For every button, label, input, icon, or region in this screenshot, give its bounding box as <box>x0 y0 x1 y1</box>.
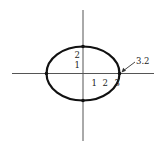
x-tick-label-3: 3 <box>115 78 120 88</box>
intercept-dot-right <box>118 72 122 76</box>
callout-arrow-head-icon <box>122 68 127 73</box>
x-tick-label-1: 1 <box>92 78 97 88</box>
intercept-dot-left <box>45 72 49 76</box>
intercept-value-label: 3.2 <box>136 56 150 66</box>
y-tick-label-2: 2 <box>75 50 80 60</box>
intercept-dot-bottom <box>81 99 85 103</box>
intercept-dot-top <box>81 45 85 49</box>
x-tick-label-2: 2 <box>103 78 108 88</box>
y-tick-label-1: 1 <box>75 60 80 70</box>
ellipse-diagram: 2 1 1 2 3 3.2 <box>0 0 165 149</box>
